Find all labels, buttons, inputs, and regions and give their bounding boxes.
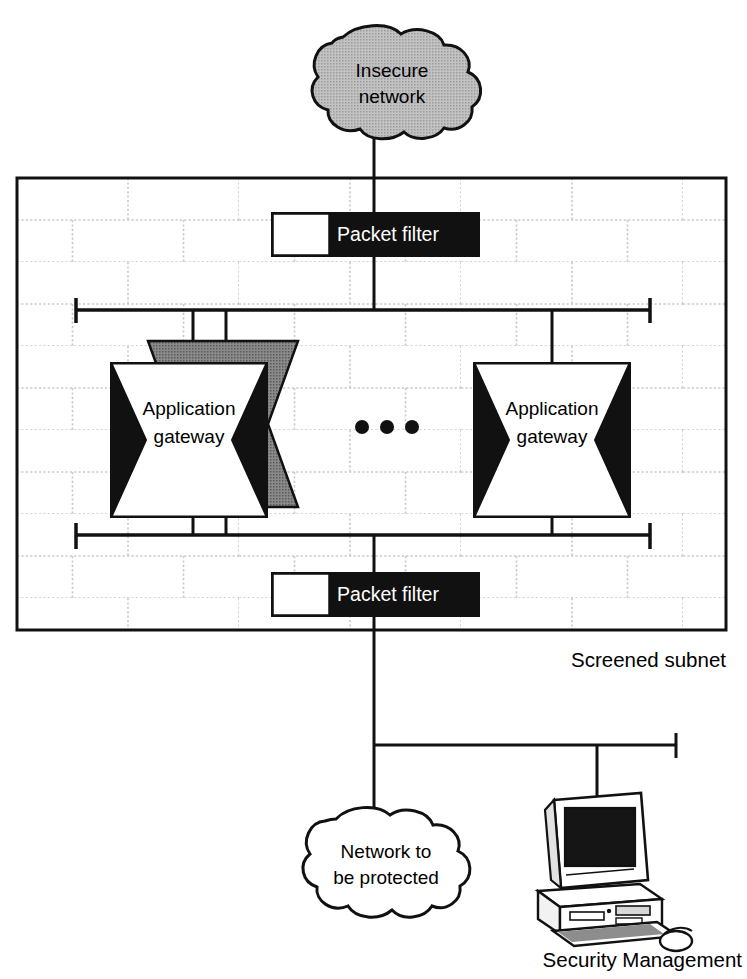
security-management-label: Security Management bbox=[543, 948, 743, 971]
screened-subnet-label: Screened subnet bbox=[571, 648, 726, 671]
diagram-labels: Screened subnet Security Management bbox=[0, 0, 747, 979]
network-security-diagram: Packet filter Packet filter Application … bbox=[0, 0, 747, 979]
